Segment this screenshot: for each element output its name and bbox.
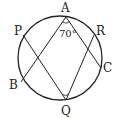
label-A: A [60,1,70,15]
angle-arc-Q [63,95,69,96]
label-P: P [14,24,22,38]
segment-AB [21,17,66,82]
label-Q: Q [61,104,71,118]
label-B: B [9,78,18,92]
circle-diagram: A P B Q R C 70° [0,0,120,118]
label-R: R [96,24,106,38]
angle-label-A: 70° [59,28,77,39]
label-C: C [103,61,112,75]
segment-RQ [66,35,94,100]
angle-arc-A [63,22,70,23]
segment-PQ [23,35,66,100]
